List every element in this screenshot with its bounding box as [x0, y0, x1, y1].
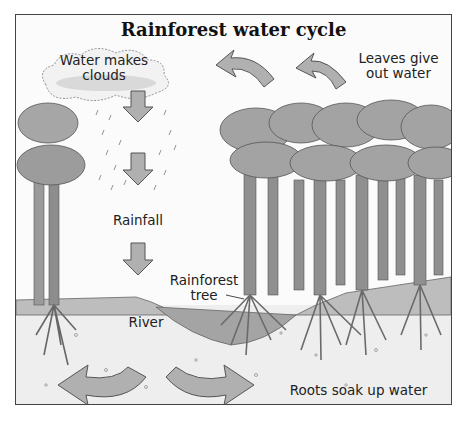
label-leaves-give-out-water: Leaves give out water [346, 51, 451, 81]
forest-trunks [244, 165, 443, 295]
label-clouds-line2: clouds [44, 68, 164, 83]
label-tree-line2: tree [164, 288, 244, 303]
label-rainfall: Rainfall [98, 213, 178, 228]
forest-canopy [220, 100, 451, 181]
label-roots-soak-up-water: Roots soak up water [266, 383, 451, 398]
arrow-curve-canopy-to-sky [216, 50, 274, 87]
arrow-down-3 [123, 243, 153, 275]
arrow-curve-leaves [296, 53, 346, 89]
label-rainforest-tree: Rainforest tree [164, 273, 244, 303]
label-leaves-line2: out water [346, 66, 451, 81]
arrow-down-2 [123, 153, 153, 185]
label-water-makes-clouds: Water makes clouds [44, 53, 164, 83]
label-clouds-line1: Water makes [44, 53, 164, 68]
label-tree-line1: Rainforest [164, 273, 244, 288]
label-river: River [116, 315, 176, 330]
label-leaves-line1: Leaves give [346, 51, 451, 66]
diagram-title: Rainforest water cycle [16, 19, 451, 40]
diagram-frame: Rainforest water cycle Water makes cloud… [15, 14, 452, 405]
